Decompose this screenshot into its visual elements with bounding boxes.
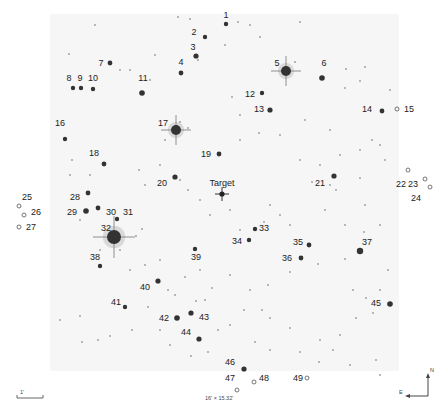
comparison-star-4[interactable]: 4 — [178, 57, 183, 75]
comparison-star-1[interactable]: 1 — [223, 10, 228, 26]
background-star — [204, 299, 206, 301]
star-dot — [357, 248, 363, 254]
star-label: 1 — [223, 10, 228, 20]
star-label: 37 — [362, 237, 372, 247]
star-label: 21 — [315, 178, 325, 188]
background-star — [209, 214, 211, 216]
background-star — [189, 18, 191, 20]
background-star — [372, 312, 374, 314]
star-dot — [241, 366, 246, 371]
star-label: 35 — [293, 237, 303, 247]
background-star — [119, 69, 121, 71]
background-star — [129, 269, 131, 271]
background-star — [197, 59, 199, 61]
background-star — [129, 69, 131, 71]
star-label: 30 — [106, 207, 116, 217]
star-dot — [387, 301, 393, 307]
background-star — [159, 329, 161, 331]
background-star — [364, 66, 366, 68]
background-star — [279, 214, 281, 216]
background-star — [159, 164, 161, 166]
star-dot — [79, 86, 83, 90]
comparison-star-26[interactable]: 26 — [22, 207, 41, 217]
background-star — [239, 114, 241, 116]
star-dot — [108, 61, 113, 66]
background-star — [344, 224, 346, 226]
background-star — [79, 315, 81, 317]
scale-bar: 1' — [17, 389, 43, 398]
star-label: 34 — [232, 236, 242, 246]
background-star — [207, 351, 209, 353]
star-label: 6 — [321, 58, 326, 68]
background-star — [141, 228, 143, 230]
background-star — [269, 204, 271, 206]
background-star — [89, 174, 91, 176]
background-star — [345, 68, 347, 70]
star-dot — [196, 336, 201, 341]
background-star — [229, 274, 231, 276]
background-star — [279, 134, 281, 136]
comparison-star-49[interactable]: 49 — [293, 373, 309, 383]
star-dot — [253, 227, 257, 231]
star-label: 9 — [77, 73, 82, 83]
star-label: 2 — [191, 27, 196, 37]
background-star — [352, 289, 354, 291]
background-star — [379, 144, 381, 146]
background-star — [199, 199, 201, 201]
background-star — [243, 309, 245, 311]
comparison-star-25[interactable]: 25 — [17, 192, 32, 208]
compass-rose: N E — [399, 367, 434, 398]
background-star — [239, 229, 241, 231]
comparison-star-47[interactable]: 47 — [225, 373, 239, 392]
background-star — [324, 209, 326, 211]
off-field-star-marker — [17, 225, 21, 229]
background-star — [311, 181, 313, 183]
comparison-star-48[interactable]: 48 — [252, 373, 269, 384]
background-star — [363, 231, 365, 233]
background-star — [269, 317, 271, 319]
star-dot — [96, 206, 101, 211]
background-star — [349, 364, 351, 366]
star-dot — [179, 71, 184, 76]
background-star — [231, 96, 233, 98]
background-star — [167, 289, 169, 291]
star-label: 18 — [89, 148, 99, 158]
background-star — [239, 139, 241, 141]
star-label: 29 — [67, 207, 77, 217]
star-label: 27 — [26, 222, 36, 232]
background-star — [329, 184, 331, 186]
star-label: 48 — [259, 373, 269, 383]
star-dot — [188, 310, 193, 315]
background-star — [365, 297, 367, 299]
background-star — [319, 339, 321, 341]
star-label: 17 — [158, 118, 168, 128]
background-star — [371, 139, 373, 141]
star-label: 4 — [178, 57, 183, 67]
star-label: 28 — [70, 192, 80, 202]
star-dot — [171, 125, 181, 135]
background-star — [379, 224, 381, 226]
star-label: 16 — [55, 118, 65, 128]
star-dot — [307, 243, 312, 248]
background-star — [179, 121, 181, 123]
star-label: 40 — [140, 282, 150, 292]
comparison-star-23[interactable]: 23 — [408, 177, 427, 189]
off-field-star-marker — [17, 204, 21, 208]
scale-bar-label: 1' — [20, 389, 24, 395]
background-star — [154, 54, 156, 56]
background-star — [144, 184, 146, 186]
star-label: 11 — [138, 73, 147, 83]
background-star — [179, 179, 181, 181]
star-dot — [174, 315, 180, 321]
background-star — [211, 287, 213, 289]
star-label: 41 — [111, 297, 121, 307]
star-label: 14 — [362, 104, 372, 114]
background-star — [384, 159, 386, 161]
comparison-star-27[interactable]: 27 — [17, 222, 36, 232]
star-dot — [319, 75, 325, 81]
background-star — [339, 334, 341, 336]
star-label: 12 — [245, 89, 255, 99]
background-star — [355, 317, 357, 319]
background-star — [299, 351, 301, 353]
background-star — [184, 276, 186, 278]
